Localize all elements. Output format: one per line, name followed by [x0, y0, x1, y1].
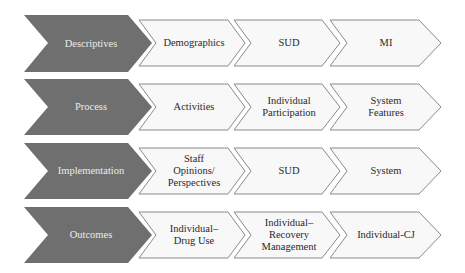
step-label: SUD — [249, 20, 329, 66]
step-label: System — [345, 148, 427, 194]
head-label: Process — [48, 79, 134, 135]
head-label: Outcomes — [48, 207, 134, 263]
head-label: Descriptives — [48, 15, 134, 72]
step-label: System Features — [345, 84, 427, 130]
step-label: Activities — [154, 84, 234, 130]
step-label: Individual– Drug Use — [154, 212, 234, 258]
step-label: Individual Participation — [249, 84, 329, 130]
step-label: Individual– Recovery Management — [249, 212, 329, 258]
step-label: Individual-CJ — [345, 212, 427, 258]
head-label: Implementation — [48, 143, 134, 199]
step-label: Staff Opinions/ Perspectives — [154, 148, 234, 194]
step-label: Demographics — [154, 20, 234, 66]
step-label: MI — [345, 20, 427, 66]
step-label: SUD — [249, 148, 329, 194]
